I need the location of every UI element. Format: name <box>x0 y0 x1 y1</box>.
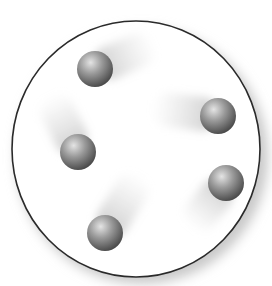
particle-sphere <box>208 165 244 201</box>
particle-sphere <box>87 215 123 251</box>
particle-sphere <box>200 98 236 134</box>
particle-sphere <box>77 51 113 87</box>
particle-sphere <box>60 134 96 170</box>
gas-container-diagram <box>0 0 272 286</box>
